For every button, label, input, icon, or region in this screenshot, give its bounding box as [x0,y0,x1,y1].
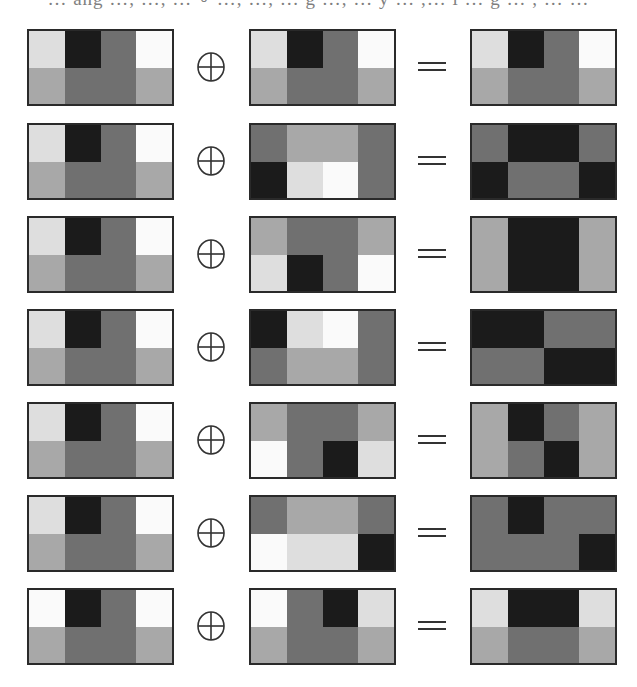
grid-cell [287,404,323,441]
grid-cell [544,218,580,255]
equation-row-1 [0,29,637,105]
grid-cell [251,590,287,627]
grid-cell [65,255,101,292]
grid-cell [251,218,287,255]
grid-cell [323,218,359,255]
grid-right-row-1 [470,29,617,106]
grid-right-row-4 [470,309,617,386]
equals-icon [412,309,452,385]
grid-cell [323,441,359,478]
equals-icon [412,29,452,105]
grid-cell [251,534,287,571]
grid-cell [29,68,65,105]
grid-cell [579,497,615,534]
grid-cell [508,125,544,162]
grid-cell [508,311,544,348]
equation-row-6 [0,495,637,571]
grid-cell [579,627,615,664]
grid-cell [251,255,287,292]
grid-cell [323,162,359,199]
grid-cell [358,441,394,478]
grid-cell [136,162,172,199]
grid-cell [508,68,544,105]
grid-cell [287,68,323,105]
grid-cell [508,348,544,385]
grid-cell [65,534,101,571]
equation-row-4 [0,309,637,385]
grid-cell [136,311,172,348]
grid-cell [136,534,172,571]
grid-cell [29,162,65,199]
grid-cell [29,404,65,441]
grid-cell [251,311,287,348]
grid-cell [287,590,323,627]
grid-cell [136,68,172,105]
grid-cell [508,627,544,664]
grid-cell [508,534,544,571]
grid-left-row-6 [27,495,174,572]
grid-right-row-3 [470,216,617,293]
grid-cell [101,255,137,292]
grid-cell [29,311,65,348]
grid-cell [508,162,544,199]
grid-cell [101,125,137,162]
grid-cell [579,441,615,478]
grid-cell [323,404,359,441]
grid-cell [323,31,359,68]
grid-cell [65,497,101,534]
grid-cell [136,627,172,664]
grid-cell [358,404,394,441]
grid-right-row-6 [470,495,617,572]
equation-row-3 [0,216,637,292]
grid-right-row-2 [470,123,617,200]
circled-plus-icon [191,309,231,385]
grid-cell [136,125,172,162]
caption-fragment: … ang …, …, … ∘ …, …, … g …, … y … ,… l … [0,0,637,7]
grid-cell [287,348,323,385]
grid-cell [472,255,508,292]
grid-cell [508,441,544,478]
grid-cell [544,497,580,534]
grid-mid-row-4 [249,309,396,386]
grid-cell [579,348,615,385]
grid-cell [136,218,172,255]
circled-plus-icon [191,402,231,478]
grid-cell [323,497,359,534]
grid-cell [251,627,287,664]
grid-cell [251,125,287,162]
grid-mid-row-6 [249,495,396,572]
grid-left-row-7 [27,588,174,665]
grid-cell [544,348,580,385]
grid-cell [358,348,394,385]
grid-cell [29,627,65,664]
grid-cell [136,497,172,534]
grid-cell [472,404,508,441]
grid-cell [472,31,508,68]
grid-cell [472,441,508,478]
grid-cell [101,404,137,441]
grid-cell [29,497,65,534]
grid-cell [29,31,65,68]
grid-cell [101,68,137,105]
grid-left-row-3 [27,216,174,293]
grid-cell [287,627,323,664]
circled-plus-icon [191,495,231,571]
grid-cell [287,441,323,478]
grid-cell [29,255,65,292]
equals-icon [412,123,452,199]
grid-cell [101,590,137,627]
grid-cell [358,162,394,199]
grid-cell [579,125,615,162]
equals-icon [412,402,452,478]
grid-cell [136,348,172,385]
grid-cell [323,255,359,292]
grid-cell [544,255,580,292]
grid-cell [29,218,65,255]
grid-cell [544,534,580,571]
grid-cell [251,31,287,68]
grid-cell [287,125,323,162]
grid-cell [287,311,323,348]
grid-cell [358,68,394,105]
equals-icon [412,216,452,292]
grid-cell [101,534,137,571]
